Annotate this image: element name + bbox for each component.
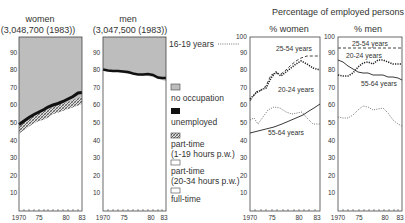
svg-text:90: 90 — [240, 49, 248, 56]
m-25-54-label: 25-54 years — [352, 40, 388, 48]
svg-text:50: 50 — [328, 119, 336, 126]
part-time-long-swatch — [171, 160, 180, 165]
svg-text:70: 70 — [10, 84, 18, 91]
men-y-axis: 10 20 30 40 50 60 70 80 90 — [93, 49, 101, 197]
svg-text:50: 50 — [10, 119, 18, 126]
svg-text:60: 60 — [328, 101, 336, 108]
svg-text:1970: 1970 — [12, 214, 27, 221]
youth-label: 16-19 years — [169, 39, 214, 49]
svg-text:80: 80 — [381, 214, 389, 221]
svg-text:75: 75 — [268, 214, 276, 221]
svg-text:80: 80 — [240, 66, 248, 73]
svg-text:(1-19 hours p.w.): (1-19 hours p.w.) — [171, 149, 235, 159]
svg-text:70: 70 — [93, 84, 101, 91]
svg-text:70: 70 — [240, 84, 248, 91]
svg-text:30: 30 — [93, 154, 101, 161]
svg-text:100: 100 — [236, 33, 247, 40]
svg-text:40: 40 — [240, 137, 248, 144]
women-stacked-chart — [19, 37, 82, 211]
svg-text:70: 70 — [328, 84, 336, 91]
svg-text:10: 10 — [10, 189, 18, 196]
svg-text:10: 10 — [240, 189, 248, 196]
women-title: women — [24, 14, 54, 24]
svg-text:1970: 1970 — [96, 214, 111, 221]
header-title: Percentage of employed persons — [272, 7, 405, 17]
svg-text:20: 20 — [328, 172, 336, 179]
svg-text:60: 60 — [10, 101, 18, 108]
svg-text:60: 60 — [240, 101, 248, 108]
svg-text:80: 80 — [62, 214, 70, 221]
svg-text:80: 80 — [328, 66, 336, 73]
svg-text:80: 80 — [147, 214, 155, 221]
svg-text:90: 90 — [93, 49, 101, 56]
m-55-64-label: 55-64 years — [361, 80, 397, 88]
svg-text:part-time: part-time — [171, 139, 205, 149]
m-20-24-label: 20-24 years — [346, 52, 382, 60]
legend: no occupation unemployed part-time (1-19… — [169, 39, 240, 204]
svg-text:20: 20 — [93, 172, 101, 179]
svg-text:part-time: part-time — [171, 166, 205, 176]
part-time-short-swatch — [171, 133, 180, 138]
pct-men-x-axis: 1970 75 80 83 — [331, 214, 404, 221]
svg-text:80: 80 — [93, 66, 101, 73]
svg-text:40: 40 — [93, 137, 101, 144]
pct-men-y-axis: 10 20 30 40 50 60 70 80 90 100 — [324, 33, 336, 196]
svg-text:80: 80 — [10, 66, 18, 73]
svg-text:30: 30 — [10, 154, 18, 161]
no-occupation-swatch — [171, 84, 180, 90]
svg-text:80: 80 — [295, 214, 303, 221]
svg-text:20: 20 — [240, 172, 248, 179]
svg-text:20: 20 — [10, 172, 18, 179]
full-time-swatch — [171, 188, 180, 193]
svg-text:10: 10 — [93, 189, 101, 196]
svg-text:75: 75 — [355, 214, 363, 221]
svg-text:1970: 1970 — [331, 214, 346, 221]
w-20-24-label: 20-24 years — [278, 86, 314, 94]
svg-text:(20-34 hours p.w.): (20-34 hours p.w.) — [171, 176, 240, 186]
svg-text:1970: 1970 — [243, 214, 258, 221]
women-subtitle: (3,048,700 (1983)) — [1, 25, 76, 35]
svg-text:83: 83 — [160, 214, 168, 221]
chart-canvas: women (3,048,700 (1983)) men (3,047,500 … — [0, 0, 405, 223]
women-x-axis: 1970 75 80 83 — [12, 214, 86, 221]
men-title: men — [119, 14, 137, 24]
men-x-axis: 1970 75 80 83 — [96, 214, 168, 221]
svg-text:83: 83 — [313, 214, 321, 221]
svg-text:full-time: full-time — [171, 194, 201, 204]
pct-women-chart: 25-54 years 20-24 years 55-64 years — [250, 37, 320, 211]
svg-text:60: 60 — [93, 101, 101, 108]
svg-text:30: 30 — [328, 154, 336, 161]
pct-women-x-axis: 1970 75 80 83 — [243, 214, 321, 221]
svg-text:40: 40 — [328, 137, 336, 144]
svg-text:10: 10 — [328, 189, 336, 196]
svg-text:75: 75 — [35, 214, 43, 221]
svg-text:75: 75 — [120, 214, 128, 221]
pct-women-title: % women — [269, 24, 309, 34]
svg-text:100: 100 — [324, 33, 335, 40]
pct-men-title: % men — [354, 24, 382, 34]
women-y-axis: 10 20 30 40 50 60 70 80 90 — [10, 49, 18, 197]
svg-text:90: 90 — [10, 49, 18, 56]
pct-men-chart: 25-54 years 20-24 years 55-64 years — [338, 37, 402, 211]
legend-no-occupation: no occupation — [171, 93, 224, 103]
w-55-64-label: 55-64 years — [268, 129, 304, 137]
svg-text:83: 83 — [396, 214, 404, 221]
svg-text:50: 50 — [93, 119, 101, 126]
svg-text:40: 40 — [10, 137, 18, 144]
svg-text:30: 30 — [240, 154, 248, 161]
svg-text:50: 50 — [240, 119, 248, 126]
pct-women-y-axis: 10 20 30 40 50 60 70 80 90 100 — [236, 33, 248, 196]
svg-text:83: 83 — [78, 214, 86, 221]
unemployed-swatch — [171, 108, 180, 114]
men-subtitle: (3,047,500 (1983)) — [93, 25, 168, 35]
men-stacked-chart — [103, 37, 166, 211]
svg-text:90: 90 — [328, 49, 336, 56]
legend-unemployed: unemployed — [171, 117, 218, 127]
w-25-54-label: 25-54 years — [276, 45, 312, 53]
